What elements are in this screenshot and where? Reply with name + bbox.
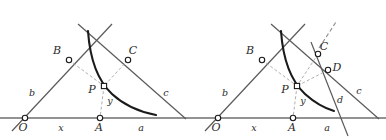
right-diagram-svg: O A B C D P b c d x a y	[193, 0, 386, 140]
point-label-O: O	[211, 121, 220, 134]
segment-label-b: b	[29, 87, 35, 98]
point-label-P: P	[280, 83, 289, 96]
point-label-A: A	[94, 121, 103, 134]
curve-arc	[88, 31, 156, 115]
segment-label-d: d	[337, 94, 343, 105]
point-label-B: B	[52, 44, 61, 57]
point-label-P: P	[87, 83, 96, 96]
dashed-segment-cp	[297, 54, 318, 86]
point-label-D: D	[332, 61, 342, 74]
point-marker-A[interactable]	[97, 115, 102, 120]
left-diagram-panel: O A B C P b c x a y	[0, 0, 193, 140]
point-marker-P[interactable]	[294, 83, 299, 88]
right-diagram-panel: O A B C D P b c d x a y	[193, 0, 386, 140]
segment-label-a: a	[324, 122, 330, 133]
dashed-segment-cp	[104, 60, 128, 86]
line-c	[271, 24, 379, 119]
line-c	[78, 24, 186, 119]
dashed-segment-pa	[293, 86, 297, 118]
point-label-A: A	[287, 121, 296, 134]
segment-label-c: c	[356, 85, 362, 96]
dashed-segment-bp	[262, 60, 297, 86]
point-label-C: C	[129, 44, 138, 57]
point-label-C: C	[320, 40, 329, 53]
point-label-B: B	[245, 44, 254, 57]
point-marker-B[interactable]	[66, 57, 71, 62]
segment-label-c: c	[163, 87, 169, 98]
point-marker-O[interactable]	[22, 115, 27, 120]
point-marker-D[interactable]	[325, 67, 330, 72]
left-diagram-svg: O A B C P b c x a y	[0, 0, 193, 140]
point-marker-A[interactable]	[290, 115, 295, 120]
point-marker-B[interactable]	[259, 57, 264, 62]
dashed-segment-dp	[297, 70, 328, 86]
segment-label-a: a	[138, 122, 144, 133]
point-marker-C[interactable]	[125, 57, 130, 62]
dashed-segment-bp	[69, 60, 104, 86]
segment-label-b: b	[222, 87, 228, 98]
dashed-segment-pa	[100, 86, 104, 118]
segment-label-x: x	[251, 122, 257, 133]
point-marker-P[interactable]	[101, 83, 106, 88]
point-marker-O[interactable]	[215, 115, 220, 120]
diagram-canvas: O A B C P b c x a y	[0, 0, 386, 140]
segment-label-x: x	[58, 122, 64, 133]
point-label-O: O	[18, 121, 27, 134]
segment-label-y: y	[299, 95, 306, 106]
segment-label-y: y	[106, 95, 113, 106]
